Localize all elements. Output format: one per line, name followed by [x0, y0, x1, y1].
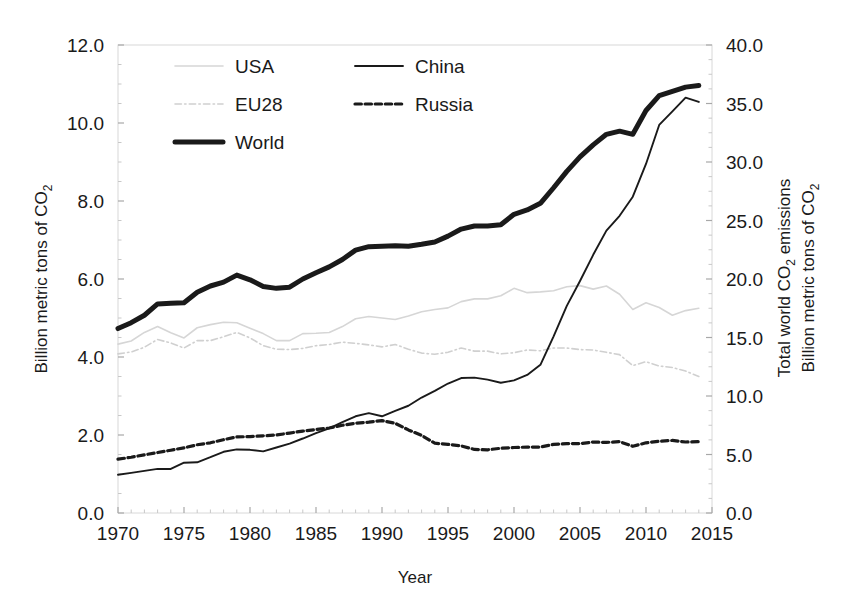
y-right-tick-label: 20.0: [726, 269, 763, 290]
x-tick-label: 2005: [559, 523, 601, 544]
series-line-russia: [118, 421, 699, 460]
legend-item-world[interactable]: World: [175, 132, 284, 153]
x-tick-label: 1975: [163, 523, 205, 544]
y-right-tick-label: 15.0: [726, 328, 763, 349]
x-tick-label: 1995: [427, 523, 469, 544]
x-axis-ticks: [118, 507, 712, 513]
y-right-tick-label: 0.0: [726, 503, 752, 524]
y-right-tick-label: 40.0: [726, 35, 763, 56]
x-axis-tick-labels: 1970197519801985199019952000200520102015: [97, 523, 733, 544]
y-left-tick-label: 8.0: [78, 191, 104, 212]
x-tick-label: 2000: [493, 523, 535, 544]
y-right-tick-label: 35.0: [726, 94, 763, 115]
legend-label-world: World: [235, 132, 284, 153]
y-axis-left-title: Billion metric tons of CO2: [32, 184, 55, 373]
series-line-usa: [118, 286, 699, 345]
x-tick-label: 1990: [361, 523, 403, 544]
y-right-tick-label: 30.0: [726, 152, 763, 173]
y-axis-left-title-text: Billion metric tons of CO: [32, 191, 51, 373]
svg-text:Billion metric tons of CO2: Billion metric tons of CO2: [799, 183, 822, 372]
chart-canvas: 1970197519801985199019952000200520102015…: [0, 0, 847, 611]
x-tick-label: 1970: [97, 523, 139, 544]
y-axis-right-title-b-subscript: 2: [808, 183, 822, 190]
legend-item-usa[interactable]: USA: [175, 56, 274, 77]
y-axis-right-title-a-tail: emissions: [775, 179, 794, 259]
y-axis-right-title-b: Billion metric tons of CO: [799, 190, 818, 372]
legend-item-eu28[interactable]: EU28: [175, 94, 283, 115]
legend-label-china: China: [415, 56, 465, 77]
y-right-tick-label: 10.0: [726, 386, 763, 407]
legend-label-russia: Russia: [415, 94, 474, 115]
legend-label-usa: USA: [235, 56, 274, 77]
y-left-tick-label: 0.0: [78, 503, 104, 524]
x-axis-title: Year: [398, 568, 433, 587]
co2-emissions-line-chart: 1970197519801985199019952000200520102015…: [0, 0, 847, 611]
y-right-tick-label: 25.0: [726, 211, 763, 232]
x-tick-label: 1980: [229, 523, 271, 544]
legend-item-china[interactable]: China: [355, 56, 465, 77]
y-axis-right-title-a: Total world CO: [775, 266, 794, 377]
y-axis-left-ticks: [118, 45, 124, 513]
y-left-tick-label: 10.0: [67, 113, 104, 134]
x-tick-label: 2010: [625, 523, 667, 544]
y-left-tick-label: 4.0: [78, 347, 104, 368]
y-axis-right-ticks: [706, 45, 712, 513]
svg-text:Billion metric tons of CO2: Billion metric tons of CO2: [32, 184, 55, 373]
series-line-world: [118, 86, 699, 329]
y-left-tick-label: 2.0: [78, 425, 104, 446]
chart-legend: USAEU28WorldChinaRussia: [175, 56, 474, 153]
x-tick-label: 1985: [295, 523, 337, 544]
y-axis-left-tick-labels: 0.02.04.06.08.010.012.0: [67, 35, 104, 524]
y-left-tick-label: 6.0: [78, 269, 104, 290]
x-tick-label: 2015: [691, 523, 733, 544]
y-axis-left-title-subscript: 2: [41, 184, 55, 191]
y-axis-right-title-line1: Total world CO2 emissions: [775, 179, 798, 377]
y-axis-right-title-line2: Billion metric tons of CO2: [799, 183, 822, 372]
y-right-tick-label: 5.0: [726, 445, 752, 466]
y-left-tick-label: 12.0: [67, 35, 104, 56]
series-line-eu28: [118, 332, 699, 376]
svg-text:Total world CO2 emissions: Total world CO2 emissions: [775, 179, 798, 377]
y-axis-right-tick-labels: 0.05.010.015.020.025.030.035.040.0: [726, 35, 763, 524]
legend-item-russia[interactable]: Russia: [355, 94, 474, 115]
legend-label-eu28: EU28: [235, 94, 283, 115]
